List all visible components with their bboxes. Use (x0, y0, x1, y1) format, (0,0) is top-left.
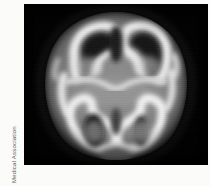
credit-margin: © 1987 American Medical Association (0, 0, 24, 185)
brain-scan-svg (24, 4, 208, 165)
brain-image (24, 4, 208, 165)
brain-parenchyma (45, 12, 187, 165)
figure-container: © 1987 American Medical Association (0, 0, 210, 185)
scan-panel (24, 4, 208, 165)
copyright-credit: © 1987 American Medical Association (10, 85, 17, 186)
